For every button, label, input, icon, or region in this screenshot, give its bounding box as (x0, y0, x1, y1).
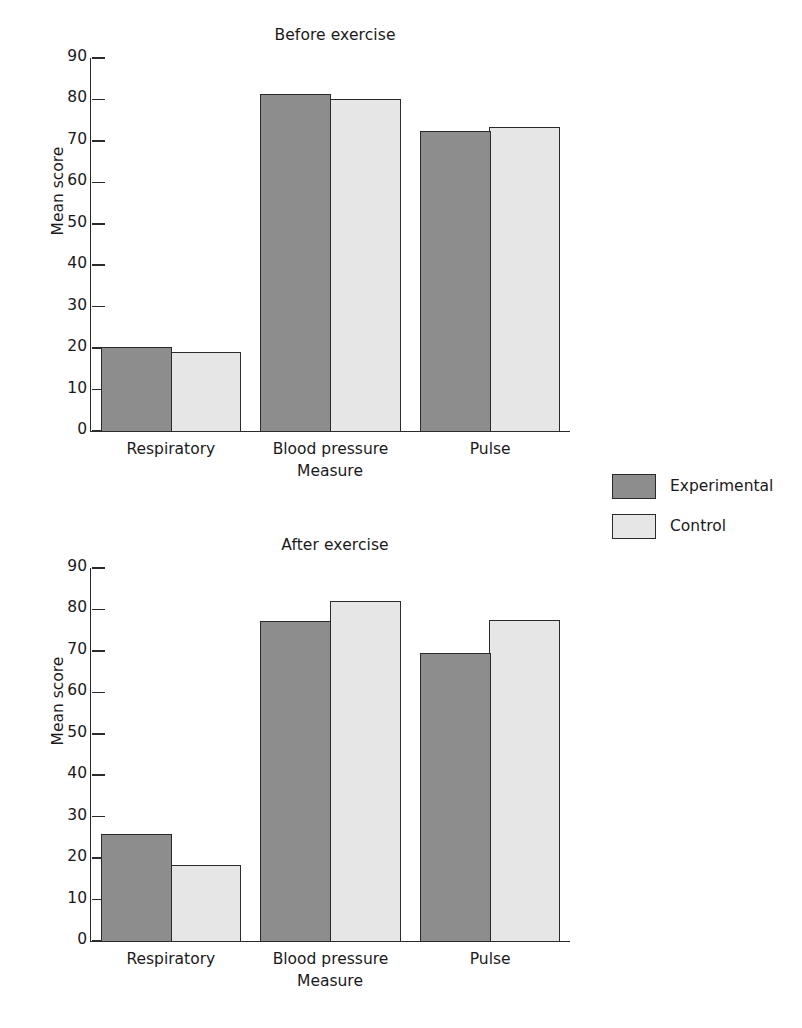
bar-experimental (420, 131, 491, 431)
x-axis-category-label: Blood pressure (273, 950, 389, 968)
legend-swatch-control (612, 514, 656, 539)
y-axis-tick-label: 50 (67, 213, 87, 231)
y-axis-tick-label: 60 (67, 681, 87, 699)
bar-control (170, 865, 241, 941)
legend-swatch-experimental (612, 474, 656, 499)
x-axis-category-label: Pulse (470, 440, 511, 458)
bar-control (330, 601, 401, 941)
x-axis-category-label: Blood pressure (273, 440, 389, 458)
y-axis-label-after: Mean score (49, 631, 67, 771)
x-axis-category-label: Respiratory (126, 440, 215, 458)
chart-title-after: After exercise (100, 536, 570, 554)
bar-pair (410, 58, 570, 431)
bar-group: Blood pressure (251, 568, 411, 941)
plot-area-before: 9080706050403020100RespiratoryBlood pres… (90, 58, 570, 432)
bar-pair (91, 58, 251, 431)
chart-after-exercise: After exercise Mean score 90807060504030… (0, 522, 640, 1022)
y-axis-tick-label: 40 (67, 764, 87, 782)
plot-area-after: 9080706050403020100RespiratoryBlood pres… (90, 568, 570, 942)
y-axis-tick-label: 90 (67, 557, 87, 575)
legend-item-experimental: Experimental (612, 466, 802, 506)
chart-legend: Experimental Control (612, 466, 802, 546)
bar-experimental (420, 653, 491, 941)
bar-experimental (260, 621, 331, 941)
y-axis-tick-label: 80 (67, 598, 87, 616)
bar-control (330, 99, 401, 431)
y-axis-tick-label: 20 (67, 847, 87, 865)
y-axis-tick-label: 0 (77, 930, 87, 948)
y-axis-tick-label: 70 (67, 130, 87, 148)
y-axis-tick-label: 30 (67, 806, 87, 824)
y-axis-tick-label: 90 (67, 47, 87, 65)
bar-pair (410, 568, 570, 941)
bar-pair (91, 568, 251, 941)
chart-title-before: Before exercise (100, 26, 570, 44)
y-axis-tick-label: 20 (67, 337, 87, 355)
y-axis-tick-label: 40 (67, 254, 87, 272)
chart-before-exercise: Before exercise Mean score 9080706050403… (0, 12, 640, 492)
x-axis-label-before: Measure (90, 462, 570, 480)
bar-group: Respiratory (91, 568, 251, 941)
bar-control (170, 352, 241, 431)
bar-control (489, 127, 560, 431)
legend-item-control: Control (612, 506, 802, 546)
bar-experimental (260, 94, 331, 431)
y-axis-tick-label: 70 (67, 640, 87, 658)
bar-pair (251, 568, 411, 941)
x-axis-label-after: Measure (90, 972, 570, 990)
bar-group: Pulse (410, 58, 570, 431)
bar-experimental (101, 834, 172, 941)
x-axis-category-label: Pulse (470, 950, 511, 968)
x-axis-category-label: Respiratory (126, 950, 215, 968)
y-axis-tick-label: 80 (67, 88, 87, 106)
legend-label-experimental: Experimental (670, 477, 773, 495)
bar-control (489, 620, 560, 941)
y-axis-tick-label: 10 (67, 379, 87, 397)
y-axis-tick-label: 10 (67, 889, 87, 907)
y-axis-label-before: Mean score (49, 121, 67, 261)
bar-group: Pulse (410, 568, 570, 941)
y-axis-tick-label: 0 (77, 420, 87, 438)
legend-label-control: Control (670, 517, 726, 535)
bar-group: Respiratory (91, 58, 251, 431)
y-axis-tick-label: 50 (67, 723, 87, 741)
y-axis-tick-label: 60 (67, 171, 87, 189)
bar-experimental (101, 347, 172, 431)
bar-pair (251, 58, 411, 431)
y-axis-tick-label: 30 (67, 296, 87, 314)
bar-group: Blood pressure (251, 58, 411, 431)
